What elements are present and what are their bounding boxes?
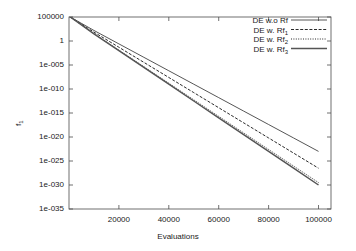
y-tick-label: 1e-030 — [0, 180, 64, 189]
y-axis-title-subscript: 1 — [18, 120, 24, 123]
legend-label-4: DE w. Rf3 — [150, 45, 288, 57]
x-tick-label: 100000 — [289, 215, 349, 224]
x-axis-title-text: Evaluations — [157, 232, 198, 241]
chart-figure: 10000011e-0051e-0101e-0151e-0201e-0251e-… — [0, 0, 356, 251]
legend-label-subscript: 3 — [285, 49, 288, 55]
legend-label-text: DE w. Rf — [254, 26, 285, 35]
y-tick-label: 1e-035 — [0, 204, 64, 213]
legend-label-1: DE w.o Rf — [150, 16, 288, 25]
legend-line-samples — [291, 20, 327, 49]
y-tick-label: 1 — [0, 36, 64, 45]
y-tick-label: 1e-020 — [0, 132, 64, 141]
x-axis-title: Evaluations — [0, 232, 356, 241]
y-axis-title-text: f — [14, 124, 23, 126]
y-tick-label: 1e-010 — [0, 84, 64, 93]
y-tick-label: 1e-005 — [0, 60, 64, 69]
y-axis-title: f1 — [14, 120, 26, 126]
y-tick-label: 1e-025 — [0, 156, 64, 165]
legend-label-text: DE w. Rf — [254, 35, 285, 44]
legend-label-text: DE w.o Rf — [252, 16, 288, 25]
y-tick-label: 1e-015 — [0, 108, 64, 117]
y-tick-label: 100000 — [0, 12, 64, 21]
legend-label-text: DE w. Rf — [254, 45, 285, 54]
